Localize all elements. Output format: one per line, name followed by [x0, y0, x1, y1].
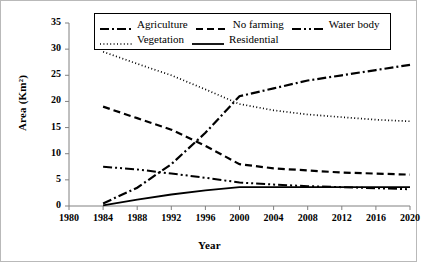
x-axis-ticks — [69, 206, 410, 210]
x-tick-label: 2020 — [390, 212, 425, 223]
chart-legend: AgricultureNo farmingWater body Vegetati… — [94, 13, 391, 50]
legend-item-residential[interactable]: Residential — [191, 33, 279, 45]
legend-item-no-farming[interactable]: No farming — [195, 18, 284, 30]
axis-lines — [69, 23, 410, 206]
y-tick-label: 30 — [35, 42, 61, 53]
legend-swatch-icon — [99, 34, 133, 43]
y-tick-label: 10 — [35, 147, 61, 158]
legend-swatch-icon — [191, 34, 225, 43]
legend-label: Vegetation — [137, 33, 184, 45]
y-axis-title: Area (Km²) — [16, 60, 28, 146]
y-tick-label: 25 — [35, 68, 61, 79]
legend-swatch-icon — [99, 19, 133, 28]
data-series-group — [103, 52, 410, 206]
y-tick-label: 15 — [35, 121, 61, 132]
x-axis-title: Year — [1, 239, 418, 251]
legend-item-vegetation[interactable]: Vegetation — [99, 33, 184, 45]
legend-label: No farming — [233, 18, 284, 30]
legend-item-agriculture[interactable]: Agriculture — [99, 18, 188, 30]
legend-swatch-icon — [291, 19, 325, 28]
legend-label: Agriculture — [137, 18, 188, 30]
legend-swatch-icon — [195, 19, 229, 28]
legend-label: Water body — [329, 18, 380, 30]
y-tick-label: 0 — [35, 199, 61, 210]
legend-label: Residential — [229, 33, 279, 45]
series-line-residential — [103, 187, 410, 205]
legend-row: VegetationResidential — [99, 31, 387, 46]
y-tick-label: 35 — [35, 16, 61, 27]
series-line-water-body — [103, 167, 410, 189]
legend-item-water-body[interactable]: Water body — [291, 18, 380, 30]
y-tick-label: 5 — [35, 173, 61, 184]
legend-row: AgricultureNo farmingWater body — [99, 16, 387, 31]
y-tick-label: 20 — [35, 94, 61, 105]
series-line-vegetation — [103, 52, 410, 122]
series-line-no-farming — [103, 107, 410, 175]
y-axis-ticks — [65, 23, 69, 206]
